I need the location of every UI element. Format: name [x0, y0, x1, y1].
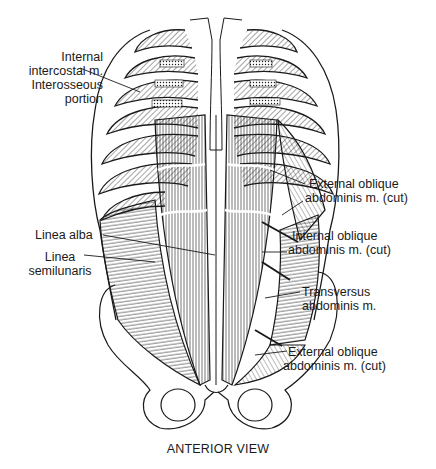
label-linea-semilunaris: Linea semilunaris — [25, 250, 95, 278]
figure-caption: ANTERIOR VIEW — [0, 442, 436, 456]
label-linea-alba: Linea alba — [35, 228, 93, 242]
label-internal-intercostal: Internal intercostal m. Interosseous por… — [15, 50, 103, 106]
anatomy-figure: Internal intercostal m. Interosseous por… — [0, 0, 436, 469]
label-internal-oblique: Internal oblique abdominis m. (cut) — [288, 229, 391, 257]
label-external-oblique-bottom: External oblique abdominis m. (cut) — [283, 345, 386, 373]
label-transversus: Transversus abdominis m. — [302, 285, 376, 313]
label-external-oblique-top: External oblique abdominis m. (cut) — [305, 177, 408, 205]
